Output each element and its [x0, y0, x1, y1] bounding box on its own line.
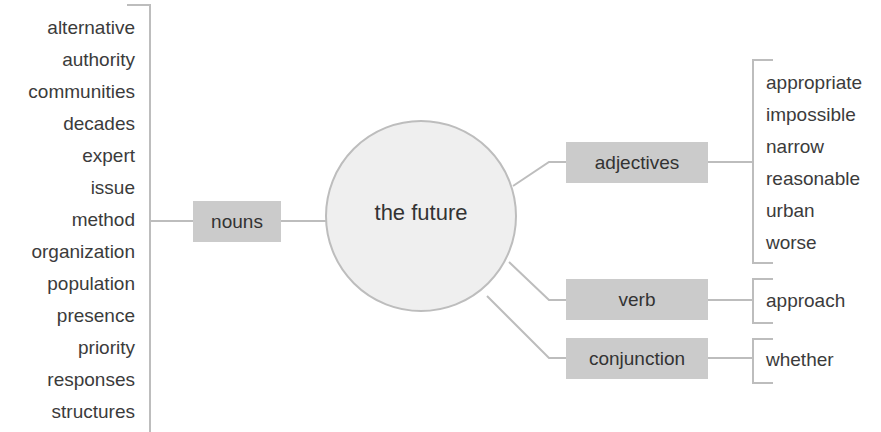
- noun-word: responses: [47, 369, 135, 391]
- adjective-word: urban: [766, 200, 815, 222]
- noun-word: presence: [57, 305, 135, 327]
- center-topic-label: the future: [326, 200, 516, 226]
- noun-word: alternative: [47, 17, 135, 39]
- noun-word: communities: [28, 81, 135, 103]
- nouns-category-box: nouns: [193, 201, 281, 242]
- adjective-word: narrow: [766, 136, 824, 158]
- noun-word: population: [47, 273, 135, 295]
- noun-word: priority: [78, 337, 135, 359]
- noun-word: expert: [82, 145, 135, 167]
- noun-word: method: [72, 209, 135, 231]
- adjective-word: worse: [766, 232, 817, 254]
- verb-word: approach: [766, 290, 845, 312]
- noun-word: issue: [91, 177, 135, 199]
- adjectives-category-box: adjectives: [566, 142, 708, 183]
- noun-word: organization: [31, 241, 135, 263]
- adjective-word: appropriate: [766, 72, 862, 94]
- noun-word: decades: [63, 113, 135, 135]
- conjunction-category-box: conjunction: [566, 338, 708, 379]
- noun-word: authority: [62, 49, 135, 71]
- verb-category-box: verb: [566, 279, 708, 320]
- adjective-word: reasonable: [766, 168, 860, 190]
- conjunction-word: whether: [766, 349, 834, 371]
- adjective-word: impossible: [766, 104, 856, 126]
- noun-word: structures: [52, 401, 135, 423]
